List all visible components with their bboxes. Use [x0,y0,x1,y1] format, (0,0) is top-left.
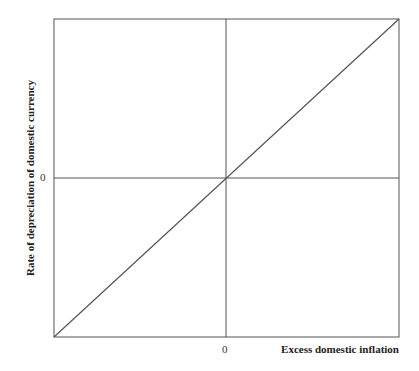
x-zero-tick-label: 0 [222,343,228,355]
y-zero-tick-label: 0 [40,171,46,183]
x-axis-label: Excess domestic inflation [281,343,399,355]
chart-canvas [0,0,419,371]
y-axis-label: Rate of depreciation of domestic currenc… [24,80,36,276]
